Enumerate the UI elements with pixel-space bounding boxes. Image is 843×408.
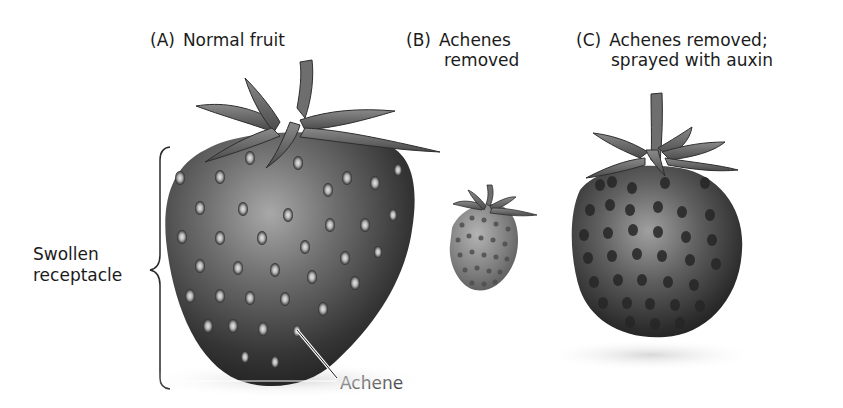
strawberry-b: [450, 185, 537, 290]
strawberry-illustration: [0, 0, 843, 408]
stem-b: [486, 185, 493, 206]
receptacle-brace: [150, 147, 170, 389]
strawberry-c: [540, 93, 760, 371]
strawberry-a: [140, 60, 440, 398]
stem-a: [297, 60, 313, 118]
